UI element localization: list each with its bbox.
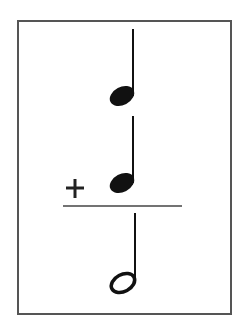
plus-icon: [66, 179, 84, 198]
quarter-note-icon: [106, 29, 137, 110]
quarter-note-icon: [106, 116, 137, 197]
half-note-icon: [108, 213, 138, 296]
note-addition-diagram: [0, 0, 242, 333]
